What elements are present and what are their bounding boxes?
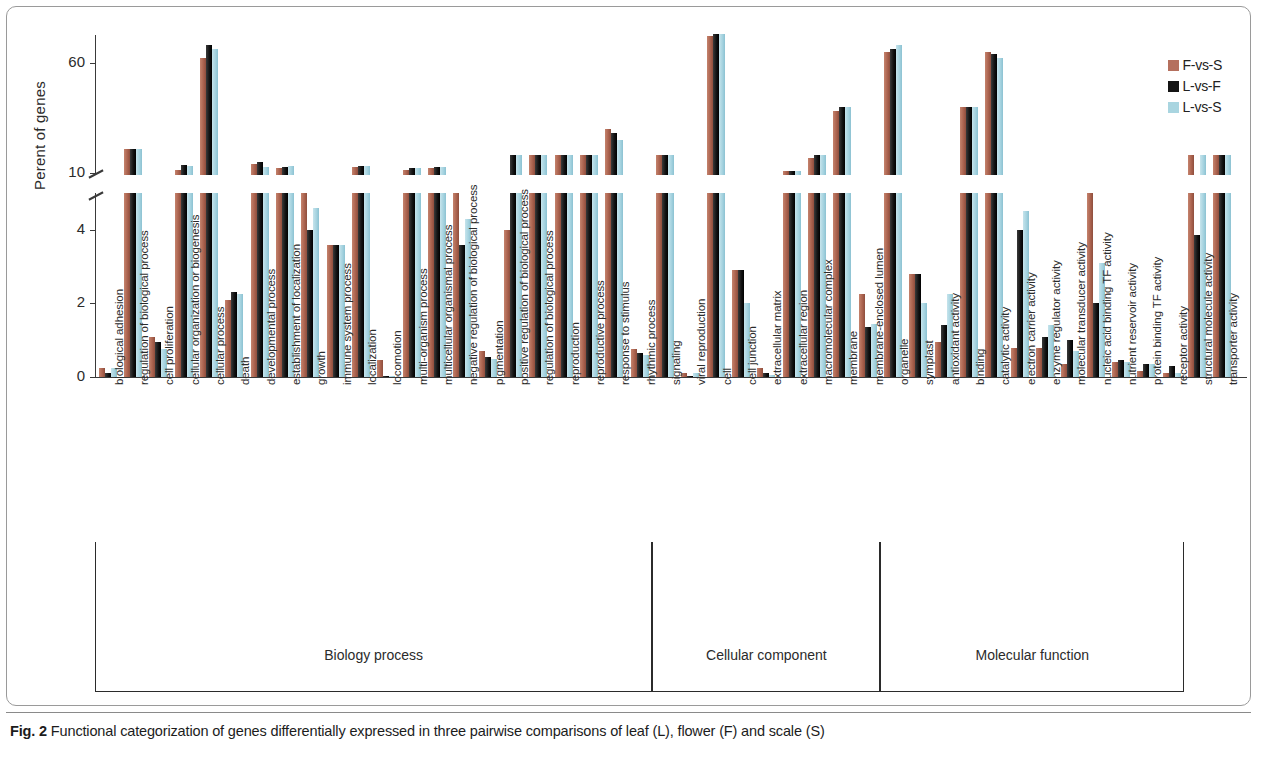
- bar-group: [479, 35, 497, 175]
- bar-l-vs-s: [972, 107, 978, 175]
- bar-group: [149, 35, 167, 175]
- bar-group: [707, 35, 725, 175]
- bar-group: [783, 35, 801, 175]
- category-label: nucleic acid binding TF activity: [1101, 232, 1113, 385]
- bar-group: [1011, 35, 1029, 175]
- bar-group: [99, 35, 117, 175]
- bar-group: [276, 35, 294, 175]
- category-label: molecular transducer activity: [1075, 242, 1087, 385]
- bar-group: [225, 193, 243, 377]
- caption-divider: [6, 712, 1251, 713]
- bar-group: [681, 35, 699, 175]
- bar-group: [631, 35, 649, 175]
- group-bracket: [880, 542, 1184, 692]
- bar-group: [985, 35, 1003, 175]
- legend-item: L-vs-S: [1168, 99, 1222, 115]
- chart-legend: F-vs-SL-vs-FL-vs-S: [1168, 57, 1222, 120]
- category-label: negative regulation of biological proces…: [467, 185, 479, 385]
- bar-group: [707, 193, 725, 377]
- bar-f-vs-s: [377, 360, 383, 377]
- bar-group: [301, 193, 319, 377]
- bar-group: [251, 35, 269, 175]
- category-label: regulation of biological process: [138, 230, 150, 385]
- legend-item: L-vs-F: [1168, 78, 1222, 94]
- bar-l-vs-s: [820, 155, 826, 175]
- bar-group: [1087, 35, 1105, 175]
- category-label: rhythmic process: [645, 300, 657, 385]
- y-axis-tick-mark: [90, 377, 95, 378]
- bar-l-vs-s: [668, 155, 674, 175]
- bar-group: [428, 35, 446, 175]
- bar-group: [200, 35, 218, 175]
- category-label: biological adhesion: [113, 289, 125, 385]
- category-label: symplast: [923, 340, 935, 385]
- category-label: positive regulation of biological proces…: [518, 189, 530, 385]
- category-label: cellular organization or biogenesis: [189, 215, 201, 385]
- category-label: membrane: [847, 331, 859, 385]
- bar-l-vs-s: [1200, 155, 1206, 175]
- category-label: pigmentation: [493, 320, 505, 385]
- bar-group: [377, 35, 395, 175]
- category-label: binding: [974, 349, 986, 385]
- bar-l-vs-s: [187, 166, 193, 175]
- category-label: organelle: [898, 339, 910, 385]
- category-label: growth: [315, 351, 327, 385]
- bar-group: [656, 35, 674, 175]
- category-label: protein binding TF activity: [1151, 257, 1163, 385]
- bar-f-vs-s: [1188, 155, 1194, 175]
- category-label: membrane-enclosed lumen: [873, 248, 885, 385]
- bar-group: [1112, 35, 1130, 175]
- bar-group: [909, 35, 927, 175]
- bar-group: [124, 35, 142, 175]
- category-label: transporter activity: [1227, 293, 1239, 385]
- bar-group: [1137, 35, 1155, 175]
- category-label: nutrient reservoir activity: [1126, 263, 1138, 385]
- bar-group: [605, 35, 623, 175]
- bar-group: [859, 35, 877, 175]
- category-label: viral reproduction: [695, 299, 707, 385]
- category-label: localization: [366, 329, 378, 385]
- bar-l-vs-s: [288, 166, 294, 175]
- bar-l-vs-s: [795, 171, 801, 175]
- bar-l-vs-s: [136, 149, 142, 175]
- bar-l-vs-s: [364, 166, 370, 175]
- category-label: multicellular organismal process: [442, 225, 454, 385]
- bar-l-vs-s: [516, 155, 522, 175]
- category-label: locomotion: [391, 330, 403, 385]
- category-label: antioxidant activity: [949, 293, 961, 385]
- category-label: cellular process: [214, 307, 226, 385]
- legend-swatch-icon: [1168, 81, 1179, 92]
- category-label: signaling: [670, 341, 682, 386]
- category-label: cell: [721, 368, 733, 385]
- category-label: extracellular matrix: [771, 291, 783, 386]
- bar-group: [833, 35, 851, 175]
- bar-group: [225, 35, 243, 175]
- bar-l-vs-s: [541, 155, 547, 175]
- category-label: cell proliferation: [163, 306, 175, 385]
- bar-l-vs-s: [719, 34, 725, 175]
- bar-group: [529, 35, 547, 175]
- category-label: death: [239, 357, 251, 385]
- category-label: structural molecule activity: [1202, 253, 1214, 385]
- bar-l-vs-s: [719, 193, 725, 377]
- bar-group: [757, 35, 775, 175]
- bar-group: [555, 35, 573, 175]
- group-bracket-label: Cellular component: [652, 647, 880, 663]
- bar-group: [808, 35, 826, 175]
- bar-group: [504, 35, 522, 175]
- category-label: extracellular region: [797, 290, 809, 385]
- category-label: multi-organism process: [417, 268, 429, 385]
- category-label: regulation of biological process: [543, 230, 555, 385]
- bar-l-vs-s: [592, 155, 598, 175]
- chart-plot-area: Perent of genes 0241060 biological adhes…: [7, 7, 1252, 707]
- bar-group: [352, 35, 370, 175]
- bar-group: [1036, 35, 1054, 175]
- legend-swatch-icon: [1168, 60, 1179, 71]
- bar-group: [1061, 35, 1079, 175]
- bar-l-vs-s: [617, 140, 623, 175]
- category-label: reproductive process: [594, 280, 606, 385]
- bar-l-vs-s: [567, 155, 573, 175]
- category-label: electron carrier activity: [1025, 272, 1037, 385]
- group-bracket: [95, 542, 652, 692]
- figure-caption: Fig. 2 Functional categorization of gene…: [10, 722, 1250, 742]
